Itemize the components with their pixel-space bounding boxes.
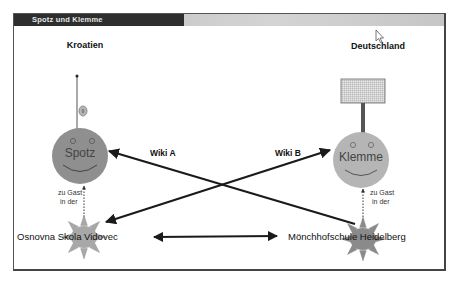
spotz-character: Spotz [52,75,108,185]
sun-ray [81,249,88,259]
sun-ray [360,251,367,261]
guest-label-right-line1: zu Gast [370,189,394,196]
country-label-left: Kroatien [67,40,104,50]
antenna-tip [76,75,79,78]
ornament-inner [82,109,85,114]
school-label-right: Mönchhofschule Heidelberg [288,231,406,242]
sign-post [361,103,365,133]
wiki-b-label: Wiki B [275,148,301,158]
guest-label-left-line1: zu Gast [58,189,82,196]
klemme-character: Klemme [333,79,389,188]
guest-label-left-line2: in der [60,198,78,205]
spotz-name: Spotz [65,146,96,160]
wiki-a-label: Wiki A [150,148,176,158]
arrow-wiki-a [109,151,355,224]
school-label-left: Osnovna Skola Vidovec [17,231,118,242]
sign-board-icon [341,79,385,103]
arrow-school-exchange [154,236,277,237]
klemme-name: Klemme [339,150,383,164]
sun-ray [360,217,367,227]
guest-label-right-line2: in der [372,198,390,205]
diagram-canvas: Kroatien Deutschland Spotz Klemme Wiki A… [0,0,456,284]
sun-ray [81,215,88,225]
country-label-right: Deutschland [351,41,405,51]
